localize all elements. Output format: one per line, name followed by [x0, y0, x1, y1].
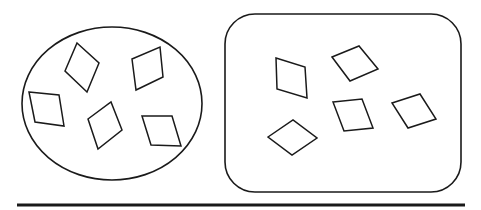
rhombus-shape	[65, 43, 99, 92]
rhombus-shape	[88, 102, 122, 149]
diagram-canvas	[0, 0, 481, 210]
rhombus-shape	[276, 58, 307, 98]
ellipse-group	[22, 27, 202, 180]
ellipse-rhombus-set	[29, 43, 181, 149]
rhombus-shape	[332, 46, 378, 81]
rhombus-shape	[268, 120, 317, 155]
rounded-rect-group	[225, 14, 461, 192]
rhombus-shape	[142, 116, 181, 146]
rhombus-shape	[392, 94, 436, 128]
rhombus-shape	[333, 99, 373, 131]
rhombus-shape	[29, 92, 64, 126]
rect-rhombus-set	[268, 46, 436, 155]
rhombus-shape	[132, 47, 163, 90]
diagram-svg	[0, 0, 481, 210]
